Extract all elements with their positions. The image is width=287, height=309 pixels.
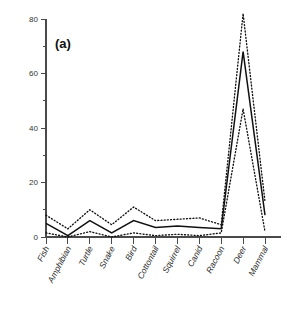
panel-label: (a) xyxy=(55,36,71,51)
x-axis-tick-label: Canid xyxy=(185,244,204,269)
x-axis-tick-label: Squirrel xyxy=(160,243,183,275)
series-lower-confidence-limit xyxy=(46,109,265,237)
x-axis-tick-label: Turtle xyxy=(76,244,95,268)
x-axis-tick-label: Fish xyxy=(35,244,51,263)
x-axis-tick-label: Mammal xyxy=(246,243,271,277)
x-axis-tick-label: Deer xyxy=(231,243,249,265)
y-axis-tick-label: 0 xyxy=(34,233,39,242)
series-mean xyxy=(46,52,265,236)
y-axis-tick-label: 40 xyxy=(29,124,38,133)
x-axis-tick-label: Snake xyxy=(97,244,117,270)
x-axis-tick-label: Racoon xyxy=(204,244,227,275)
y-axis-tick-label: 80 xyxy=(29,15,38,24)
series-upper-confidence-limit xyxy=(46,14,265,229)
y-axis-tick-label: 20 xyxy=(29,178,38,187)
line-chart: 020406080FishAmphibianTurtleSnakeBirdCot… xyxy=(0,0,287,309)
figure-panel-a: 020406080FishAmphibianTurtleSnakeBirdCot… xyxy=(0,0,287,309)
x-axis-tick-label: Bird xyxy=(123,244,139,262)
x-axis-tick-label: Cottontail xyxy=(135,243,161,280)
y-axis-tick-label: 60 xyxy=(29,69,38,78)
